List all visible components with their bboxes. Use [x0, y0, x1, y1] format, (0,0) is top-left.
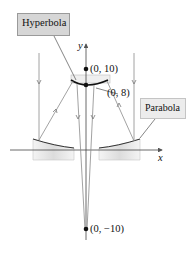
reflecting-telescope-diagram: Hyperbola Parabola y x (0, 10) (0, 8) (0… [0, 0, 192, 254]
point-0-neg10 [84, 227, 89, 232]
point-label-0-8: (0, 8) [107, 88, 130, 99]
point-0-8 [84, 83, 89, 88]
hyperbola-callout: Hyperbola [17, 13, 70, 36]
point-0-10 [84, 67, 89, 72]
x-axis-label: x [158, 153, 163, 164]
point-label-0-10: (0, 10) [90, 64, 118, 75]
y-axis-label: y [78, 41, 83, 52]
diagram-canvas [0, 0, 192, 254]
parabola-callout: Parabola [140, 98, 186, 119]
parabolic-mirror [33, 139, 140, 160]
point-label-0-neg10: (0, −10) [90, 224, 124, 235]
hyperbolic-mirror [71, 75, 110, 85]
